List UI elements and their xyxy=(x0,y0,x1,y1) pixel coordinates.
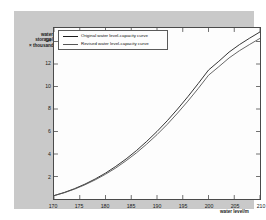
y-axis-tick-label: 6 xyxy=(48,129,51,134)
y-axis-tick-label: 10 xyxy=(45,84,51,89)
figure-canvas: water storage/ × thousand 2468101214 170… xyxy=(14,11,254,209)
x-axis-label: water level/m xyxy=(220,209,249,214)
x-axis-tick-label: 185 xyxy=(127,204,136,209)
data-series-line-revised xyxy=(54,38,260,195)
x-axis-tick-label: 210 xyxy=(257,204,265,209)
x-axis-tick-label: 200 xyxy=(205,204,214,209)
legend-label-revised: Revised water level-capacity curve xyxy=(81,42,149,46)
x-axis-tick-labels: 170175180185190195200205210 xyxy=(53,201,261,209)
legend-swatch-original xyxy=(63,36,78,37)
plot-svg xyxy=(54,28,260,199)
legend-item-original: Original water level-capacity curve xyxy=(61,33,165,41)
figure-container: water storage/ × thousand 2468101214 170… xyxy=(0,0,265,220)
data-series-line-original xyxy=(54,32,260,196)
x-axis-tick-label: 175 xyxy=(75,204,84,209)
chart-legend: Original water level-capacity curve Revi… xyxy=(58,30,168,50)
legend-label-original: Original water level-capacity curve xyxy=(81,34,148,38)
y-axis-tick-label: 4 xyxy=(48,152,51,157)
legend-swatch-revised xyxy=(63,44,78,45)
y-axis-tick-label: 14 xyxy=(45,38,51,43)
y-axis-tick-label: 8 xyxy=(48,106,51,111)
x-axis-tick-label: 195 xyxy=(179,204,188,209)
legend-item-revised: Revised water level-capacity curve xyxy=(61,41,165,49)
y-axis-tick-labels: 2468101214 xyxy=(34,27,51,200)
y-axis-tick-label: 2 xyxy=(48,175,51,180)
x-axis-tick-label: 190 xyxy=(153,204,162,209)
y-axis-tick-label: 12 xyxy=(45,61,51,66)
x-axis-tick-label: 180 xyxy=(101,204,110,209)
plot-area xyxy=(53,27,261,200)
x-axis-tick-label: 170 xyxy=(49,204,58,209)
